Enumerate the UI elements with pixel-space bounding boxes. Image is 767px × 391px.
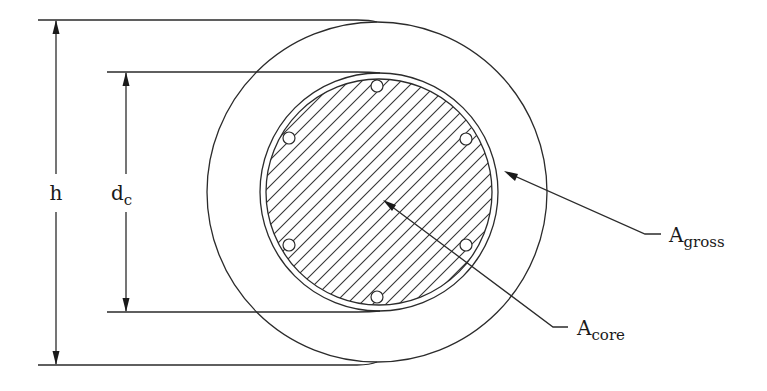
- hatch-line: [97, 12, 457, 372]
- a-core-label: Acore: [576, 316, 625, 344]
- hatch-line: [331, 12, 691, 372]
- dc-extension-bottom: [107, 311, 380, 312]
- hatch-line: [253, 12, 613, 372]
- hatch-line: [110, 12, 470, 372]
- a-gross-arrowhead-icon: [504, 171, 518, 181]
- hatch-line: [123, 12, 483, 372]
- a-core-callout: Acore: [383, 200, 625, 344]
- h-extension-top: [38, 20, 377, 22]
- spiral-ring-outline: [260, 73, 498, 311]
- a-gross-label: Agross: [668, 223, 725, 251]
- dc-arrowhead-top-icon: [123, 72, 130, 86]
- rebar-lower-right: [460, 239, 472, 251]
- hatch-line: [227, 12, 587, 372]
- longitudinal-rebars: [283, 80, 472, 303]
- hatch-line: [201, 12, 561, 372]
- rebar-bottom: [371, 291, 383, 303]
- hatch-line: [32, 12, 392, 372]
- hatch-line: [266, 12, 626, 372]
- hatch-line: [357, 12, 717, 372]
- hatch-line: [344, 12, 704, 372]
- hatch-line: [214, 12, 574, 372]
- h-extension-bottom: [38, 362, 377, 365]
- hatch-line: [84, 12, 444, 372]
- rebar-top: [371, 80, 383, 92]
- a-core-leader-line: [387, 203, 568, 327]
- rebar-upper-right: [460, 133, 472, 145]
- a-gross-callout: Agross: [504, 171, 725, 251]
- h-arrowhead-top-icon: [53, 20, 60, 34]
- column-cross-section-diagram: h dc Agross Acore: [0, 0, 767, 391]
- rebar-upper-left: [283, 132, 295, 144]
- rebar-lower-left: [283, 239, 295, 251]
- dc-dimension: dc: [107, 72, 380, 312]
- dc-extension-top: [107, 72, 380, 73]
- hatch-line: [240, 12, 600, 372]
- hatch-line: [19, 12, 379, 372]
- dc-label: dc: [111, 181, 132, 209]
- dc-arrowhead-bottom-icon: [123, 298, 130, 312]
- hatch-line: [188, 12, 548, 372]
- h-label: h: [50, 181, 63, 205]
- hatch-line: [45, 12, 405, 372]
- hatch-line: [292, 12, 652, 372]
- h-arrowhead-bottom-icon: [53, 351, 60, 365]
- hatch-line: [149, 12, 509, 372]
- hatch-line: [305, 12, 665, 372]
- hatch-line: [162, 12, 522, 372]
- hatch-line: [175, 12, 535, 372]
- a-gross-leader-line: [508, 173, 661, 234]
- hatch-line: [136, 12, 496, 372]
